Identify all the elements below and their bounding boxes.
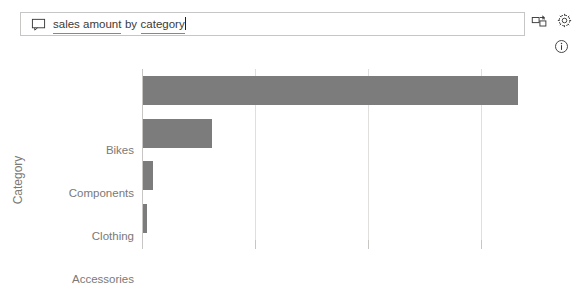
x-axis-tick: [481, 240, 482, 249]
x-axis-tick: [255, 240, 256, 249]
y-axis-tick-labels: BikesComponentsClothingAccessories: [0, 129, 142, 300]
qna-info-row: [554, 39, 569, 54]
add-to-report-icon[interactable]: [531, 12, 548, 29]
bar[interactable]: [143, 204, 147, 233]
y-axis-tick-label: Components: [69, 186, 134, 200]
bar[interactable]: [143, 161, 153, 190]
y-axis-tick-label: Bikes: [106, 143, 134, 157]
y-axis-tick-label: Clothing: [92, 229, 134, 243]
info-icon[interactable]: [554, 39, 569, 54]
y-axis-tick-label: Accessories: [72, 272, 134, 286]
qna-token-dimension: category: [141, 17, 185, 34]
qna-token-connector: by: [125, 17, 137, 32]
qna-chat-icon: [31, 17, 46, 32]
qna-search-input[interactable]: sales amount by category: [20, 12, 525, 36]
gear-icon[interactable]: [556, 12, 573, 29]
plot-area[interactable]: [142, 69, 541, 240]
x-axis-tick: [368, 240, 369, 249]
bar[interactable]: [143, 119, 212, 148]
qna-action-buttons: [531, 12, 573, 29]
bar[interactable]: [143, 76, 518, 105]
bar-chart[interactable]: Category BikesComponentsClothingAccessor…: [0, 60, 579, 300]
qna-query-text: sales amount by category: [53, 15, 186, 34]
x-axis-tick: [142, 240, 143, 249]
qna-token-measure: sales amount: [53, 17, 121, 34]
qna-bar: sales amount by category: [0, 0, 579, 62]
text-caret: [185, 17, 186, 30]
